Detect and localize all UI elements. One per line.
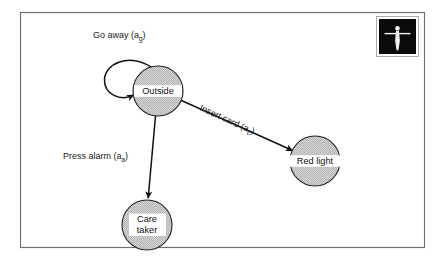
node-outside[interactable]: Outside (133, 66, 183, 116)
figure-border (21, 13, 425, 248)
edge-label-insert-card: Insert card (ac) (198, 103, 257, 138)
node-care-taker-label-line1: Care (137, 214, 157, 224)
edge-label-go-away-main: Go away (a (93, 30, 139, 40)
edge-label-go-away-tail: ) (143, 30, 146, 40)
node-red-light[interactable]: Red light (288, 136, 342, 186)
node-red-light-label: Red light (297, 156, 334, 166)
edge-press-alarm (148, 116, 155, 198)
svg-text:Insert card (ac): Insert card (ac) (198, 103, 257, 138)
edge-press-alarm-path (148, 116, 155, 198)
svg-text:Press alarm (aa): Press alarm (aa) (63, 151, 128, 163)
edge-label-press-alarm-main: Press alarm (a (63, 151, 122, 161)
figure-container: Outside Red light Care taker Go away (ag… (0, 0, 441, 269)
edge-label-press-alarm: Press alarm (aa) (63, 151, 128, 163)
edge-label-go-away: Go away (ag) (93, 30, 146, 43)
node-care-taker-label-line2: taker (137, 225, 157, 235)
state-diagram-canvas: Outside Red light Care taker Go away (ag… (0, 0, 441, 269)
svg-text:Go away (ag): Go away (ag) (93, 30, 146, 43)
edge-label-insert-card-main: Insert card (a (198, 103, 250, 134)
person-figure-icon (377, 17, 419, 57)
edge-label-insert-card-tail: ) (249, 126, 256, 136)
node-care-taker[interactable]: Care taker (122, 200, 172, 250)
node-outside-label: Outside (142, 86, 174, 96)
edge-label-press-alarm-tail: ) (125, 151, 128, 161)
